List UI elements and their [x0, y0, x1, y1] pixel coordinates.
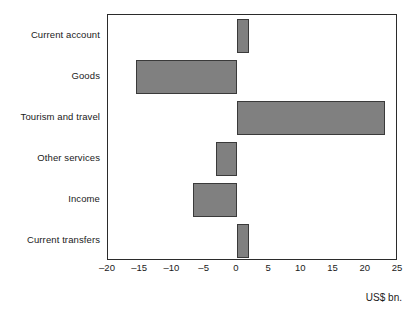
bar [216, 142, 237, 176]
bar [136, 60, 237, 94]
x-tick-label: 15 [327, 262, 338, 274]
category-label: Income [0, 194, 100, 204]
x-axis: –20–15–10–50510152025 [0, 262, 414, 280]
x-axis-unit-label: US$ bn. [366, 292, 402, 304]
category-label: Current account [0, 30, 100, 40]
bar [237, 19, 249, 53]
x-tick-label: 5 [265, 262, 270, 274]
x-tick-label: 0 [233, 262, 238, 274]
plot-area [107, 14, 397, 260]
category-axis: Current accountGoodsTourism and travelOt… [0, 14, 100, 260]
category-label: Other services [0, 153, 100, 163]
category-label: Current transfers [0, 235, 100, 245]
x-tick-label: 25 [392, 262, 403, 274]
bar [237, 224, 249, 258]
x-tick-label: –15 [131, 262, 147, 274]
x-tick-label: –5 [198, 262, 209, 274]
bar-chart: Current accountGoodsTourism and travelOt… [0, 0, 414, 332]
category-label: Goods [0, 71, 100, 81]
x-tick-label: –10 [164, 262, 180, 274]
bars-container [108, 15, 396, 259]
x-tick-label: –20 [99, 262, 115, 274]
bar [237, 101, 385, 135]
category-label: Tourism and travel [0, 112, 100, 122]
x-tick-label: 10 [295, 262, 306, 274]
bar [193, 183, 237, 217]
x-tick-label: 20 [359, 262, 370, 274]
